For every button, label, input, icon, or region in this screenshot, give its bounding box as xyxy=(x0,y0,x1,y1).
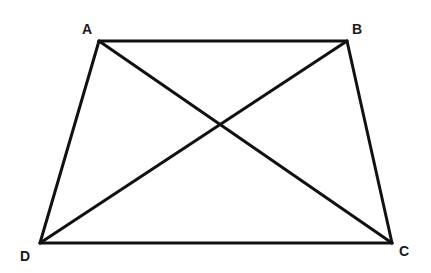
diagonal-BD xyxy=(40,41,347,243)
diagonal-AC xyxy=(99,41,392,243)
vertex-label-A: A xyxy=(82,21,92,37)
trapezoid-diagram: A B C D xyxy=(0,0,431,273)
edges-group xyxy=(40,41,392,243)
vertex-label-B: B xyxy=(352,21,362,37)
side-DA xyxy=(40,41,99,243)
side-BC xyxy=(347,41,392,243)
vertex-label-D: D xyxy=(20,248,30,264)
vertex-label-C: C xyxy=(399,243,409,259)
